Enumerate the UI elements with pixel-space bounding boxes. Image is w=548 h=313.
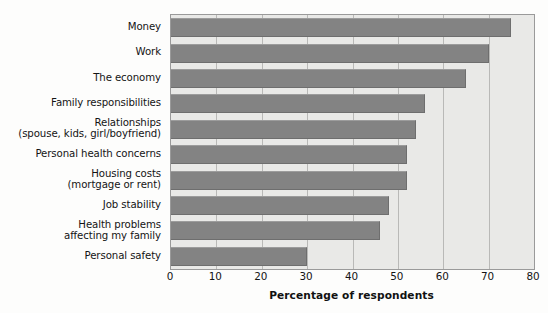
bar [171,145,407,164]
category-label: Personal health concerns [0,141,161,166]
plot-area [170,14,535,270]
axis-tick-label: 80 [526,270,539,283]
category-label-line: (spouse, kids, girl/boyfriend) [18,128,161,139]
category-label: Family responsibilities [0,90,161,115]
bar [171,94,425,113]
axis-tick-label: 30 [300,270,313,283]
category-label-line: Personal safety [85,250,161,261]
category-label-line: Family responsibilities [51,97,161,108]
axis-tick-label: 60 [436,270,449,283]
bars-layer [171,15,534,269]
category-axis: MoneyWorkThe economyFamily responsibilit… [0,14,166,268]
category-label: Job stability [0,192,161,217]
category-label-line: Job stability [103,199,161,210]
category-label: Housing costs(mortgage or rent) [0,166,161,191]
axis-tick-label: 40 [345,270,358,283]
bar [171,18,511,37]
bar [171,69,466,88]
category-label-line: affecting my family [64,230,161,241]
axis-title: Percentage of respondents [170,289,533,301]
category-label-line: (mortgage or rent) [67,179,161,190]
bar [171,120,416,139]
category-label-line: The economy [93,72,161,83]
category-label: Relationships(spouse, kids, girl/boyfrie… [0,116,161,141]
value-axis: 01020304050607080 [170,270,533,286]
bar [171,221,380,240]
axis-tick-label: 0 [167,270,174,283]
bar [171,247,307,266]
category-label: The economy [0,65,161,90]
bar [171,196,389,215]
category-label-line: Work [136,46,161,57]
category-label-line: Housing costs [91,168,161,179]
category-label-line: Relationships [94,117,161,128]
category-label-line: Money [128,21,161,32]
category-label: Money [0,14,161,39]
axis-tick-label: 70 [481,270,494,283]
axis-tick-label: 50 [390,270,403,283]
category-label: Health problemsaffecting my family [0,217,161,242]
category-label-line: Health problems [78,219,161,230]
bar [171,171,407,190]
axis-tick-label: 10 [209,270,222,283]
axis-tick-label: 20 [254,270,267,283]
category-label: Personal safety [0,243,161,268]
category-label-line: Personal health concerns [35,148,161,159]
bar [171,44,489,63]
bar-chart: MoneyWorkThe economyFamily responsibilit… [0,0,548,313]
category-label: Work [0,39,161,64]
